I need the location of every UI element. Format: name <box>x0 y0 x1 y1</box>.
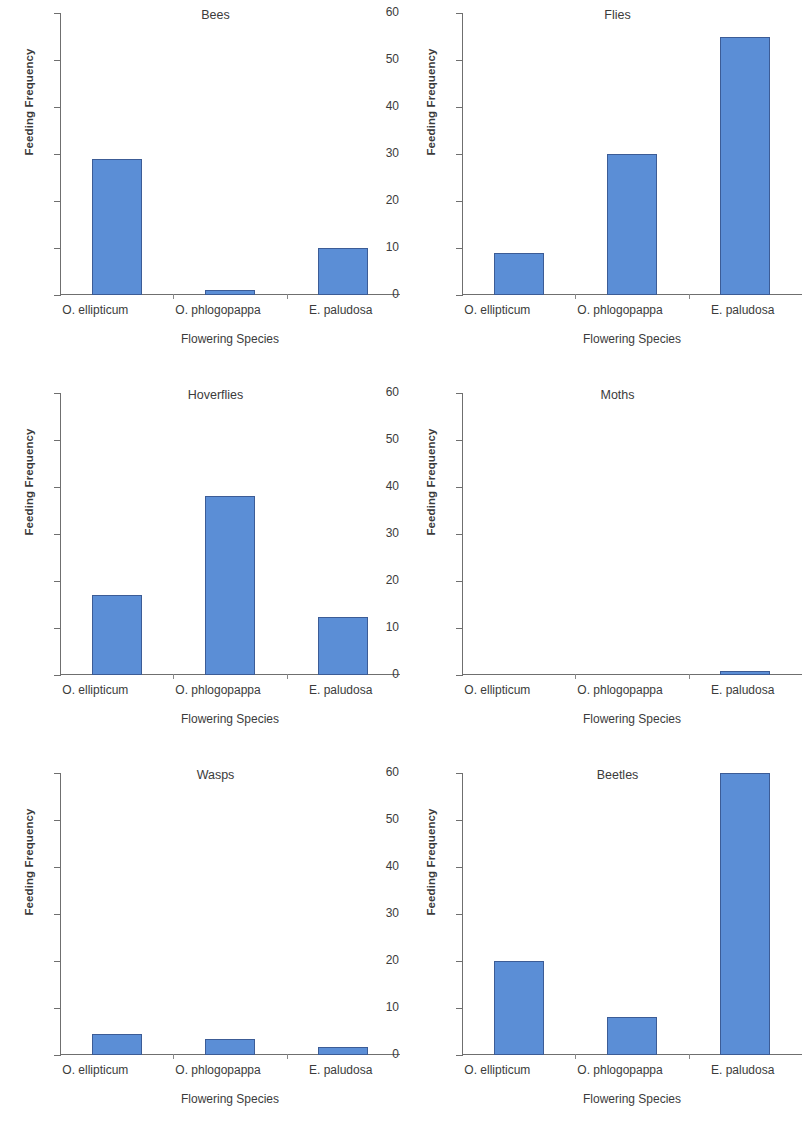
y-axis-tick <box>54 154 61 155</box>
x-axis-category-label: O. phlogopappa <box>559 683 682 697</box>
x-axis-category-label: O. phlogopappa <box>157 1063 280 1077</box>
y-axis-tick-label: 30 <box>359 146 399 160</box>
x-axis-category-label: E. paludosa <box>279 683 402 697</box>
y-axis-tick <box>54 773 61 774</box>
x-axis-category-label: O. ellipticum <box>436 683 559 697</box>
y-axis-tick-label: 40 <box>359 859 399 873</box>
y-axis-label: Feeding Frequency <box>425 747 437 977</box>
y-axis-tick-label: 60 <box>359 5 399 19</box>
y-axis-tick <box>456 675 463 676</box>
y-axis-tick <box>456 914 463 915</box>
y-axis-tick <box>54 107 61 108</box>
x-axis-label: Flowering Species <box>60 712 400 726</box>
y-axis-tick <box>456 154 463 155</box>
x-axis-category-label: O. phlogopappa <box>157 683 280 697</box>
y-axis-tick-label: 0 <box>359 667 399 681</box>
y-axis-tick <box>456 201 463 202</box>
x-axis-tick <box>173 294 174 299</box>
y-axis-tick-label: 40 <box>359 479 399 493</box>
bar <box>205 1039 255 1055</box>
x-axis-category-label: O. phlogopappa <box>559 1063 682 1077</box>
y-axis-tick <box>54 295 61 296</box>
y-axis-label: Feeding Frequency <box>425 367 437 597</box>
y-axis-label: Feeding Frequency <box>23 367 35 597</box>
y-axis-tick-label: 20 <box>359 573 399 587</box>
y-axis-tick-label: 10 <box>359 240 399 254</box>
y-axis-tick-label: 20 <box>359 193 399 207</box>
x-axis-category-label: O. ellipticum <box>436 303 559 317</box>
x-axis-tick <box>575 294 576 299</box>
x-axis-tick <box>287 674 288 679</box>
y-axis-tick <box>54 393 61 394</box>
y-axis-tick-label: 30 <box>359 526 399 540</box>
y-axis-tick <box>54 628 61 629</box>
x-axis-tick <box>575 674 576 679</box>
x-axis-tick <box>689 294 690 299</box>
y-axis-tick-label: 0 <box>359 287 399 301</box>
x-axis-tick <box>689 674 690 679</box>
chart-panel-moths: Feeding FrequencyMoths0102030405060O. el… <box>402 380 804 760</box>
x-axis-category-label: O. phlogopappa <box>157 303 280 317</box>
y-axis-tick <box>54 1008 61 1009</box>
bar <box>720 773 770 1055</box>
y-axis-tick <box>54 914 61 915</box>
plot-area: 0102030405060 <box>60 13 400 295</box>
x-axis-tick <box>287 1054 288 1059</box>
chart-panel-hoverflies: Feeding FrequencyHoverflies0102030405060… <box>0 380 402 760</box>
y-axis-tick <box>54 13 61 14</box>
y-axis-tick <box>54 534 61 535</box>
y-axis-tick <box>54 581 61 582</box>
x-axis-tick <box>287 294 288 299</box>
y-axis-tick <box>54 201 61 202</box>
bar <box>720 671 770 675</box>
bar <box>494 961 544 1055</box>
y-axis-tick-label: 30 <box>359 906 399 920</box>
y-axis-tick-label: 40 <box>359 99 399 113</box>
bar <box>607 154 657 295</box>
y-axis-tick-label: 10 <box>359 620 399 634</box>
y-axis-tick <box>456 295 463 296</box>
x-axis-category-label: O. phlogopappa <box>559 303 682 317</box>
chart-panel-bees: Feeding FrequencyBees0102030405060O. ell… <box>0 0 402 380</box>
x-axis-category-label: E. paludosa <box>279 303 402 317</box>
x-axis-category-label: E. paludosa <box>279 1063 402 1077</box>
bar <box>92 595 142 675</box>
y-axis-tick <box>456 628 463 629</box>
plot-area: 0102030405060 <box>462 773 802 1055</box>
multi-panel-bar-chart-grid: Feeding FrequencyBees0102030405060O. ell… <box>0 0 804 1137</box>
y-axis-tick <box>54 961 61 962</box>
y-axis-tick <box>54 487 61 488</box>
y-axis-tick <box>54 867 61 868</box>
y-axis-tick <box>54 60 61 61</box>
bar <box>92 1034 142 1055</box>
y-axis-tick <box>456 248 463 249</box>
y-axis-tick <box>456 581 463 582</box>
x-axis-category-label: E. paludosa <box>681 683 804 697</box>
x-axis-tick <box>575 1054 576 1059</box>
bar <box>205 290 255 295</box>
y-axis-tick-label: 20 <box>359 953 399 967</box>
x-axis-category-labels: O. ellipticumO. phlogopappaE. paludosa <box>34 1063 402 1077</box>
plot-area: 0102030405060 <box>462 393 802 675</box>
y-axis-tick <box>456 487 463 488</box>
y-axis-tick <box>456 867 463 868</box>
y-axis-tick-label: 50 <box>359 52 399 66</box>
y-axis-tick <box>54 675 61 676</box>
x-axis-label: Flowering Species <box>462 332 802 346</box>
x-axis-category-label: O. ellipticum <box>34 683 157 697</box>
y-axis-tick <box>54 440 61 441</box>
x-axis-category-label: O. ellipticum <box>436 1063 559 1077</box>
chart-panel-flies: Feeding FrequencyFlies0102030405060O. el… <box>402 0 804 380</box>
y-axis-tick <box>456 534 463 535</box>
x-axis-category-label: O. ellipticum <box>34 303 157 317</box>
y-axis-label: Feeding Frequency <box>23 747 35 977</box>
bar <box>92 159 142 295</box>
y-axis-tick-label: 60 <box>359 385 399 399</box>
y-axis-label: Feeding Frequency <box>425 0 437 217</box>
bar <box>205 496 255 675</box>
x-axis-label: Flowering Species <box>462 712 802 726</box>
y-axis-tick-label: 10 <box>359 1000 399 1014</box>
x-axis-category-label: O. ellipticum <box>34 1063 157 1077</box>
chart-panel-wasps: Feeding FrequencyWasps0102030405060O. el… <box>0 760 402 1137</box>
x-axis-label: Flowering Species <box>462 1092 802 1106</box>
